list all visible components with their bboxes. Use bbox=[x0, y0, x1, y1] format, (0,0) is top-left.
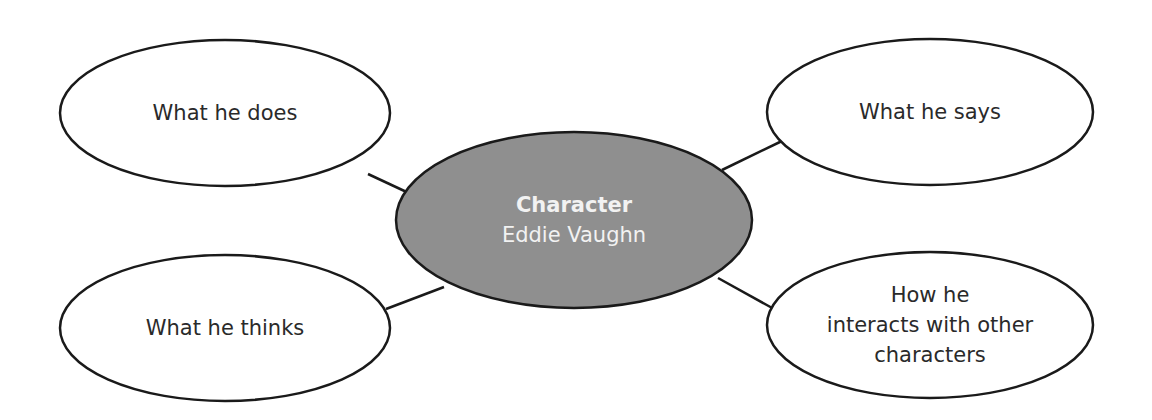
node-says: What he says bbox=[767, 39, 1093, 185]
node-says-label: What he says bbox=[859, 98, 1001, 126]
center-node: Character Eddie Vaughn bbox=[396, 132, 752, 308]
node-thinks-label: What he thinks bbox=[146, 314, 305, 342]
center-node-title: Character bbox=[516, 190, 632, 220]
node-interacts-line-1: How he bbox=[891, 280, 970, 310]
node-interacts-line-2: interacts with other bbox=[827, 310, 1033, 340]
node-interacts: How he interacts with other characters bbox=[767, 252, 1093, 398]
node-does-label: What he does bbox=[153, 99, 298, 127]
center-node-subtitle: Eddie Vaughn bbox=[502, 220, 646, 250]
node-does: What he does bbox=[60, 40, 390, 186]
node-thinks: What he thinks bbox=[60, 255, 390, 401]
node-interacts-line-3: characters bbox=[874, 340, 986, 370]
